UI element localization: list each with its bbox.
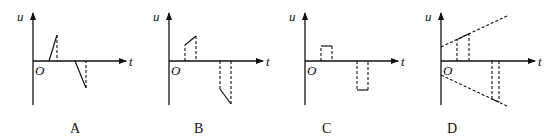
negative-segment — [492, 99, 499, 102]
caption-b: B — [194, 121, 203, 136]
caption-a: A — [70, 121, 81, 136]
t-label: t — [266, 54, 270, 69]
u-label: u — [289, 9, 296, 24]
positive-ramp — [49, 35, 57, 61]
u-label: u — [425, 9, 432, 24]
upper-envelope — [441, 15, 509, 47]
diagram-figure: u t O A u t O B u t O C — [0, 0, 560, 140]
panel-b: u t O B — [153, 9, 270, 136]
panel-c: u t O C — [289, 9, 405, 136]
u-label: u — [17, 9, 24, 24]
origin-label: O — [35, 63, 45, 78]
u-label: u — [153, 9, 160, 24]
origin-label: O — [443, 63, 453, 78]
origin-label: O — [307, 63, 317, 78]
negative-ramp — [75, 61, 86, 88]
t-label: t — [538, 54, 542, 69]
panel-d: u t O D — [425, 9, 542, 136]
t-label: t — [129, 54, 133, 69]
caption-d: D — [447, 121, 457, 136]
positive-top — [185, 36, 196, 45]
negative-bottom — [220, 89, 231, 104]
origin-label: O — [171, 63, 181, 78]
positive-segment — [457, 34, 469, 40]
t-label: t — [401, 54, 405, 69]
panel-a: u t O A — [17, 9, 133, 136]
caption-c: C — [322, 121, 331, 136]
